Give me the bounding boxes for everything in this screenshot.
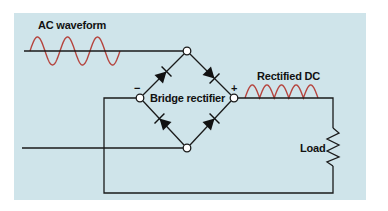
bridge-rectifier-diagram: AC waveform Bridge rectifier Rectified D… xyxy=(0,0,388,211)
bridge-node-left xyxy=(136,94,144,102)
load-label: Load xyxy=(300,142,325,154)
positive-output-wire xyxy=(238,98,333,128)
load-resistor-icon xyxy=(327,128,339,166)
rectified-dc-curve xyxy=(245,85,318,98)
positive-terminal-sign: + xyxy=(231,82,237,94)
bridge-node-right xyxy=(230,94,238,102)
bridge-node-top xyxy=(183,47,191,55)
bridge-rectifier-label: Bridge rectifier xyxy=(150,92,226,104)
bridge-node-bottom xyxy=(183,144,191,152)
rectified-dc-label: Rectified DC xyxy=(257,70,320,82)
ac-waveform-label: AC waveform xyxy=(38,19,107,31)
negative-terminal-sign: − xyxy=(134,82,140,94)
negative-output-wire xyxy=(104,98,333,193)
